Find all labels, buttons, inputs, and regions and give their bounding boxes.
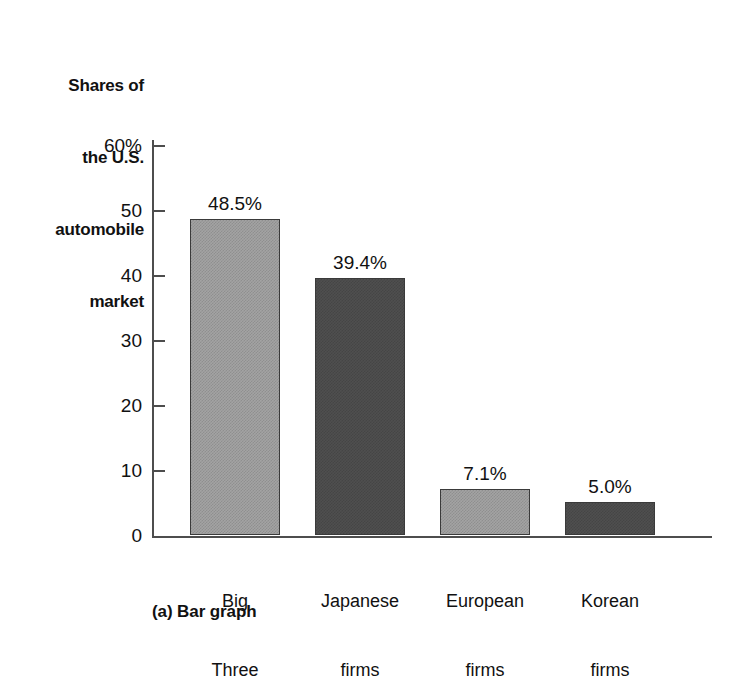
y-tick-20: 20 <box>154 405 165 407</box>
bar-value-european-firms: 7.1% <box>463 464 506 483</box>
y-tick-label-0: 0 <box>131 526 142 545</box>
y-tick-30: 30 <box>154 340 165 342</box>
bar-korean-firms[interactable]: 5.0% <box>565 502 655 535</box>
x-label-big-three-line-2: Three <box>175 659 295 680</box>
figure-caption: (a) Bar graph <box>152 602 257 622</box>
y-tick-label-60: 60% <box>104 136 142 155</box>
x-label-european-firms: European firms <box>425 544 545 680</box>
y-tick-label-10: 10 <box>121 461 142 480</box>
chart-title-line-4: market <box>18 290 144 314</box>
y-tick-40: 40 <box>154 275 165 277</box>
x-label-european-firms-line-1: European <box>425 590 545 613</box>
y-tick-label-30: 30 <box>121 331 142 350</box>
x-label-korean-firms-line-1: Korean <box>550 590 670 613</box>
x-label-japanese-firms: Japanese firms <box>300 544 420 680</box>
x-label-korean-firms-line-2: firms <box>550 659 670 680</box>
y-axis-line <box>152 140 154 538</box>
y-tick-label-50: 50 <box>121 201 142 220</box>
bar-value-big-three: 48.5% <box>208 194 262 213</box>
y-tick-label-40: 40 <box>121 266 142 285</box>
chart-title: Shares of the U.S. automobile market <box>18 26 144 362</box>
bar-japanese-firms[interactable]: 39.4% <box>315 278 405 535</box>
bar-value-japanese-firms: 39.4% <box>333 253 387 272</box>
x-label-japanese-firms-line-1: Japanese <box>300 590 420 613</box>
y-tick-label-20: 20 <box>121 396 142 415</box>
x-axis-line <box>152 536 712 538</box>
x-label-korean-firms: Korean firms <box>550 544 670 680</box>
bar-european-firms[interactable]: 7.1% <box>440 489 530 535</box>
y-tick-0: 0 <box>154 535 165 537</box>
plot-area: 60% 50 40 30 20 10 0 48.5% 39.4% 7.1% <box>152 140 712 537</box>
y-tick-50: 50 <box>154 210 165 212</box>
y-tick-10: 10 <box>154 470 165 472</box>
chart-title-line-3: automobile <box>18 218 144 242</box>
bar-value-korean-firms: 5.0% <box>588 477 631 496</box>
chart-title-line-1: Shares of <box>18 74 144 98</box>
x-label-japanese-firms-line-2: firms <box>300 659 420 680</box>
y-tick-60: 60% <box>154 145 165 147</box>
bar-big-three[interactable]: 48.5% <box>190 219 280 535</box>
x-label-european-firms-line-2: firms <box>425 659 545 680</box>
